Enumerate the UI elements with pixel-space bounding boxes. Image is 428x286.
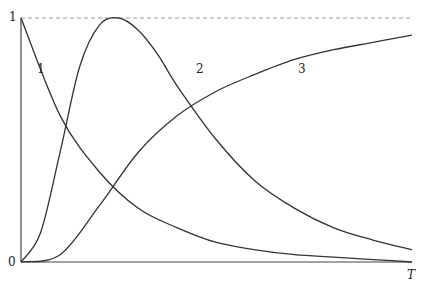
series-2-line bbox=[21, 18, 412, 262]
y-tick-one: 1 bbox=[9, 11, 17, 23]
series-3-label: 3 bbox=[298, 63, 306, 75]
series-1-label: 1 bbox=[37, 63, 45, 75]
plot-area bbox=[0, 0, 428, 286]
x-axis-label: T bbox=[407, 269, 415, 281]
y-tick-zero: 0 bbox=[8, 256, 16, 268]
chart: 1 0 T 1 2 3 bbox=[0, 0, 428, 286]
series-2-label: 2 bbox=[196, 63, 204, 75]
